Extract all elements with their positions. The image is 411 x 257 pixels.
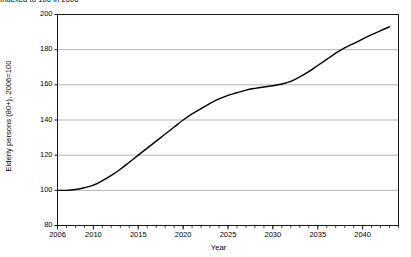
x-axis-tick-label: 2006 bbox=[38, 231, 78, 239]
chart-figure: Indexed to 100 in 2006 Elderly persons (… bbox=[0, 0, 411, 257]
x-axis-tick-label: 2015 bbox=[118, 231, 158, 239]
y-axis-tick-label: 80 bbox=[19, 221, 53, 229]
plot-canvas bbox=[0, 0, 411, 257]
y-axis-tick-label: 160 bbox=[19, 80, 53, 88]
y-axis-tick-label: 200 bbox=[19, 10, 53, 18]
y-axis-title-container: Elderly persons (80+), 2006=100 bbox=[1, 0, 15, 232]
data-line-elderly-persons bbox=[58, 27, 390, 191]
y-axis-tick-label: 180 bbox=[19, 45, 53, 53]
x-axis-tick-label: 2030 bbox=[253, 231, 293, 239]
x-axis-tick-label: 2010 bbox=[73, 231, 113, 239]
x-axis-tick-label: 2040 bbox=[343, 231, 383, 239]
x-axis-title-container: Year bbox=[0, 243, 411, 252]
x-axis-title: Year bbox=[211, 243, 226, 252]
gridlines bbox=[58, 50, 399, 191]
y-axis-tick-label: 120 bbox=[19, 151, 53, 159]
y-axis-title: Elderly persons (80+), 2006=100 bbox=[4, 61, 13, 172]
y-axis-tick-label: 140 bbox=[19, 116, 53, 124]
x-axis-tick-label: 2025 bbox=[208, 231, 248, 239]
axis-major-ticks bbox=[55, 15, 363, 230]
y-axis-tick-label: 100 bbox=[19, 186, 53, 194]
x-axis-tick-label: 2035 bbox=[298, 231, 338, 239]
x-axis-tick-label: 2020 bbox=[163, 231, 203, 239]
